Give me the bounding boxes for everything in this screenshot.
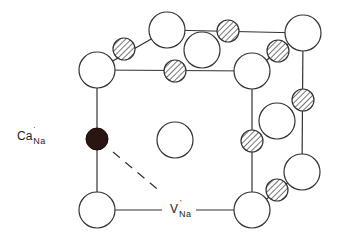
vacancy-dashed-line <box>113 152 162 193</box>
large-ion-back-bottom-right <box>284 154 320 190</box>
dopant-label-main: Ca <box>17 129 32 143</box>
small-ion-edge-top-right <box>267 40 289 62</box>
small-ion-edge-back-right <box>292 89 314 111</box>
dopant-ion-ca <box>86 128 108 150</box>
dopant-label-charge: · <box>33 124 36 132</box>
vacancy-label: V'Na <box>168 203 194 215</box>
small-ion-edge-bottom-right <box>266 179 288 201</box>
small-ion-edge-front-top <box>164 60 186 82</box>
vacancy-label-main: V <box>170 202 178 216</box>
small-ion-edge-front-right <box>241 130 263 152</box>
small-ion-edge-top-left <box>113 38 135 60</box>
large-ion-front-top-right <box>234 53 270 89</box>
large-ion-front-top-left <box>79 52 115 88</box>
large-ion-front-bottom-left <box>79 192 115 228</box>
small-ion-edge-back-top <box>217 20 239 42</box>
large-ion-right-face-center <box>259 103 295 139</box>
large-ion-top-face-center <box>184 32 220 68</box>
vacancy-label-charge: ' <box>180 199 182 207</box>
large-ion-front-bottom-right <box>234 192 270 228</box>
large-ion-front-face-center <box>157 122 193 158</box>
dopant-label-site: Na <box>33 136 46 146</box>
large-ion-back-top-left <box>149 12 185 48</box>
vacancy-label-site: Na <box>179 209 192 219</box>
dopant-label: Ca·Na <box>17 130 46 142</box>
large-ion-back-top-right <box>285 15 321 51</box>
